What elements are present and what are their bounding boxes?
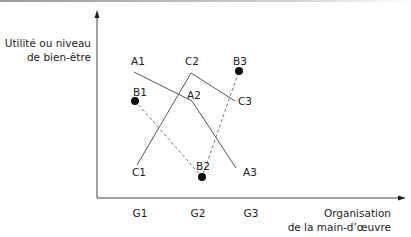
tick-g2: G2	[191, 207, 206, 219]
label-b3: B3	[233, 55, 247, 67]
marker-b2	[198, 173, 206, 181]
label-b1: B1	[133, 86, 147, 98]
series-c-line	[137, 73, 235, 165]
y-axis-label-line2: de bien-être	[27, 51, 91, 63]
marker-b3	[235, 67, 243, 75]
label-c3: C3	[238, 95, 252, 107]
marker-b1	[131, 97, 139, 105]
y-axis-label-line1: Utilité ou niveau	[5, 37, 91, 49]
label-c2: C2	[185, 55, 199, 67]
tick-g1: G1	[133, 207, 148, 219]
diagram: Utilité ou niveau de bien-être Organisat…	[0, 0, 411, 237]
x-axis-arrow-icon	[398, 196, 406, 201]
label-a1: A1	[131, 55, 145, 67]
label-c1: C1	[132, 166, 146, 178]
label-a2: A2	[187, 89, 201, 101]
x-axis-label-line1: Organisation	[324, 207, 391, 219]
y-axis-arrow-icon	[95, 10, 100, 18]
series-b-line	[135, 71, 239, 177]
tick-g3: G3	[244, 207, 259, 219]
series-a-line	[134, 72, 236, 168]
x-axis-label-line2: de la main-d’œuvre	[288, 221, 391, 233]
label-b2: B2	[196, 160, 210, 172]
label-a3: A3	[243, 166, 257, 178]
